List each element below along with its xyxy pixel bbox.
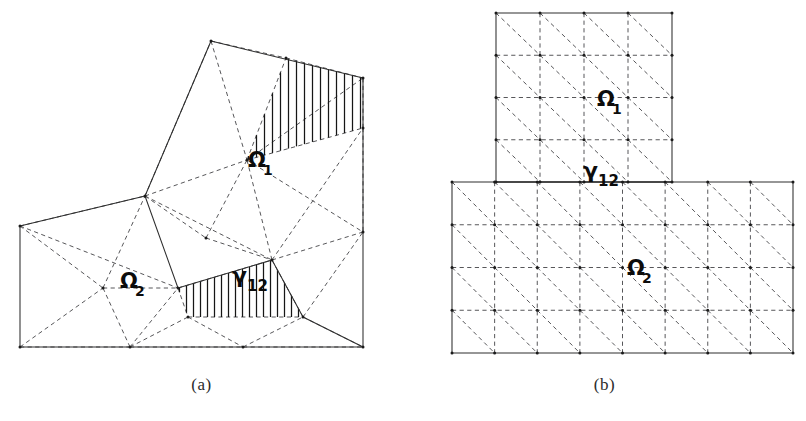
mesh-node (627, 96, 630, 99)
mesh-diagonal (537, 268, 580, 311)
mesh-node (671, 138, 674, 141)
mesh-node (706, 309, 709, 312)
mesh-diagonal (628, 98, 672, 140)
mesh-diagonal (496, 13, 540, 55)
mesh-edge (243, 317, 303, 347)
mesh-node (539, 181, 542, 184)
mesh-node (493, 309, 496, 312)
mesh-node (302, 316, 305, 319)
mesh-node (792, 181, 795, 184)
label-omega-2-b: Ω2 (627, 256, 652, 286)
mesh-diagonal (495, 310, 538, 353)
mesh-diagonal (496, 98, 540, 140)
mesh-diagonal (540, 140, 584, 182)
structured-mesh-diagram: Ω1Ω2γ12 (403, 0, 806, 370)
mesh-node (749, 352, 752, 355)
mesh-node (539, 138, 542, 141)
mesh-node (451, 181, 454, 184)
mesh-node (627, 12, 630, 15)
interface-segment (303, 317, 363, 347)
mesh-node (792, 266, 795, 269)
mesh-node (362, 127, 365, 130)
mesh-node (578, 223, 581, 226)
mesh-node (621, 352, 624, 355)
mesh-node (129, 346, 132, 349)
mesh-node (578, 309, 581, 312)
mesh-node (451, 352, 454, 355)
mesh-node (792, 309, 795, 312)
interface-segment (272, 260, 303, 317)
mesh-node (664, 309, 667, 312)
mesh-node (539, 12, 542, 15)
mesh-node (583, 138, 586, 141)
mesh-edge (20, 226, 178, 288)
mesh-nodes-b (451, 12, 795, 355)
mesh-node (539, 54, 542, 57)
outer-boundary-a (20, 41, 363, 347)
label-omega-1-b: Ω1 (597, 87, 622, 117)
mesh-diagonal (623, 310, 666, 353)
mesh-node (627, 54, 630, 57)
mesh-node (671, 54, 674, 57)
figure-root: Ω1Ω2γ12 (a) Ω1Ω2γ12 (b) (0, 0, 806, 421)
mesh-node (664, 223, 667, 226)
mesh-diagonal (708, 225, 751, 268)
mesh-diagonal (540, 55, 584, 97)
mesh-node (664, 266, 667, 269)
label-gamma-12-a-sub: 12 (247, 277, 268, 295)
mesh-node (362, 231, 365, 234)
mesh-node (706, 352, 709, 355)
mesh-node (451, 266, 454, 269)
mesh-diagonal (495, 268, 538, 311)
mesh-node (177, 287, 180, 290)
mesh-node (749, 266, 752, 269)
mesh-diagonal (537, 310, 580, 353)
mesh-diagonal (584, 13, 628, 55)
mesh-diagonal (452, 310, 495, 353)
mesh-node (19, 346, 22, 349)
mesh-diagonal (495, 225, 538, 268)
mesh-diagonal (628, 55, 672, 97)
label-omega-1-a: Ω1 (248, 148, 273, 178)
mesh-node (536, 309, 539, 312)
mesh-diagonal (496, 55, 540, 97)
mesh-node (210, 40, 213, 43)
mesh-edge (103, 288, 130, 347)
mesh-node (362, 346, 365, 349)
mesh-node (627, 138, 630, 141)
mesh-node (495, 138, 498, 141)
mesh-edge (145, 160, 247, 196)
label-gamma-12-b-base: γ (583, 158, 598, 183)
mesh-node (187, 316, 190, 319)
mesh-diagonal (452, 268, 495, 311)
mesh-diagonal (708, 268, 751, 311)
mesh-node (536, 266, 539, 269)
mesh-node (706, 181, 709, 184)
mesh-edge (272, 232, 363, 260)
mesh-node (451, 309, 454, 312)
unstructured-mesh-diagram: Ω1Ω2γ12 (0, 0, 403, 370)
mesh-edge (20, 226, 103, 288)
mesh-diagonal (628, 140, 672, 182)
mesh-node (706, 266, 709, 269)
mesh-node (664, 352, 667, 355)
label-omega-2-b-sub: 2 (642, 270, 652, 286)
mesh-node (536, 181, 539, 184)
mesh-node (671, 96, 674, 99)
mesh-node (242, 346, 245, 349)
caption-b: (b) (403, 375, 806, 395)
mesh-node (451, 223, 454, 226)
mesh-node (583, 54, 586, 57)
mesh-node (493, 181, 496, 184)
mesh-node (362, 77, 365, 80)
mesh-edge (188, 317, 243, 347)
label-gamma-12-a-base: γ (232, 263, 247, 288)
mesh-diagonal (708, 310, 751, 353)
mesh-node (539, 96, 542, 99)
mesh-node (583, 12, 586, 15)
mesh-diagonal (580, 310, 623, 353)
mesh-diagonal (540, 98, 584, 140)
mesh-node (621, 266, 624, 269)
mesh-node (583, 96, 586, 99)
mesh-node (102, 287, 105, 290)
